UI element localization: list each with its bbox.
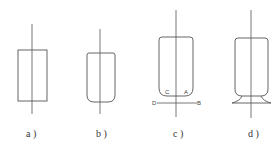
panel-d-flared-base bbox=[232, 96, 271, 103]
point-b-label: B bbox=[197, 100, 201, 106]
panel-a-rectangle bbox=[18, 50, 47, 101]
panel-a: a ) bbox=[18, 24, 47, 140]
panel-d-caption: d ) bbox=[248, 128, 259, 140]
panel-c: C A D B c ) bbox=[152, 10, 201, 140]
panel-d: d ) bbox=[232, 10, 271, 140]
point-d-label: D bbox=[152, 100, 157, 106]
point-a-label: A bbox=[184, 89, 188, 95]
diagram-canvas: a ) b ) C A D B c ) d ) bbox=[0, 0, 280, 154]
panel-d-cup bbox=[235, 38, 268, 96]
panel-b-cup bbox=[87, 53, 115, 102]
panel-c-caption: c ) bbox=[173, 128, 183, 140]
panel-a-caption: a ) bbox=[26, 128, 36, 140]
panel-b: b ) bbox=[87, 29, 115, 140]
panel-b-caption: b ) bbox=[96, 128, 107, 140]
point-c-label: C bbox=[165, 89, 170, 95]
